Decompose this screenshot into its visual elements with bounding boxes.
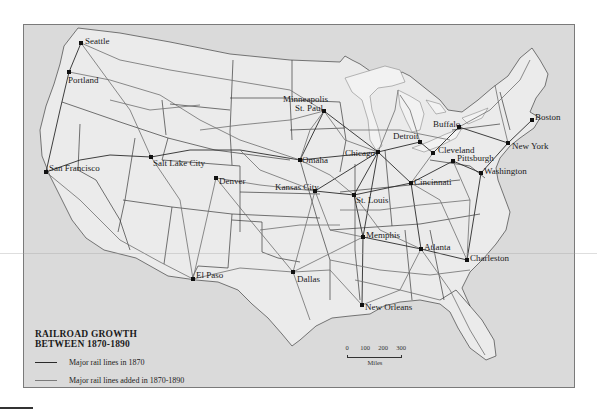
city-label-st-paul: St. Paul <box>295 103 323 113</box>
city-marker-washington <box>479 171 483 175</box>
city-label-washington: Washington <box>484 166 527 176</box>
city-marker-boston <box>530 118 534 122</box>
city-label-new-york: New York <box>512 141 549 151</box>
city-marker-el-paso <box>191 277 195 281</box>
city-marker-new-orleans <box>360 303 364 307</box>
city-marker-cincinnati <box>409 181 413 185</box>
city-label-el-paso: El Paso <box>196 270 223 280</box>
city-marker-charleston <box>465 258 469 262</box>
city-label-new-orleans: New Orleans <box>365 302 412 312</box>
city-marker-portland <box>67 70 71 74</box>
city-label-charleston: Charleston <box>470 253 509 263</box>
map-legend: RAILROAD GROWTH BETWEEN 1870-1890 Major … <box>35 329 184 385</box>
city-label-memphis: Memphis <box>366 230 400 240</box>
scale-tick-200: 200 <box>378 344 388 351</box>
city-label-salt-lake-city: Salt Lake City <box>153 158 205 168</box>
city-label-cincinnati: Cincinnati <box>414 177 452 187</box>
city-label-omaha: Omaha <box>302 155 328 165</box>
city-marker-memphis <box>361 235 365 239</box>
city-label-buffalo: Buffalo <box>433 119 460 129</box>
legend-swatch-added <box>35 380 57 381</box>
city-label-st-louis: St. Louis <box>356 195 389 205</box>
city-marker-new-york <box>506 141 510 145</box>
scale-bar-line <box>347 355 402 358</box>
city-label-seattle: Seattle <box>85 36 110 46</box>
city-label-kansas-city: Kansas City <box>275 182 319 192</box>
city-marker-chicago <box>376 150 380 154</box>
scale-ticks: 0 100 200 300 <box>344 344 404 354</box>
scale-tick-100: 100 <box>360 344 370 351</box>
legend-label-1870: Major rail lines in 1870 <box>69 358 145 367</box>
us-landmass <box>40 28 548 360</box>
legend-title-line1: RAILROAD GROWTH <box>35 329 184 339</box>
page-corner-mark <box>0 407 33 409</box>
city-marker-pittsburgh <box>451 159 455 163</box>
city-marker-san-francisco <box>44 170 48 174</box>
city-label-dallas: Dallas <box>297 274 320 284</box>
scale-bar: 0 100 200 300 Miles <box>344 344 404 354</box>
legend-title-line2: BETWEEN 1870-1890 <box>35 339 184 349</box>
city-marker-cleveland <box>431 151 435 155</box>
city-label-chicago: Chicago <box>345 148 375 158</box>
city-marker-denver <box>214 176 218 180</box>
scale-unit-label: Miles <box>344 359 406 366</box>
legend-label-added: Major rail lines added in 1870-1890 <box>69 376 184 385</box>
city-label-denver: Denver <box>219 176 246 186</box>
scale-tick-300: 300 <box>396 344 406 351</box>
city-label-boston: Boston <box>535 112 561 122</box>
city-marker-atlanta <box>419 247 423 251</box>
city-label-portland: Portland <box>68 75 99 85</box>
city-label-san-francisco: San Francisco <box>49 163 100 173</box>
city-label-pittsburgh: Pittsburgh <box>457 153 494 163</box>
city-marker-seattle <box>79 41 83 45</box>
legend-item-added: Major rail lines added in 1870-1890 <box>35 376 184 385</box>
scale-tick-0: 0 <box>345 344 348 351</box>
legend-swatch-1870 <box>35 362 57 363</box>
city-label-atlanta: Atlanta <box>424 242 451 252</box>
city-label-detroit: Detroit <box>393 131 419 141</box>
legend-item-1870: Major rail lines in 1870 <box>35 358 184 367</box>
city-marker-dallas <box>291 270 295 274</box>
